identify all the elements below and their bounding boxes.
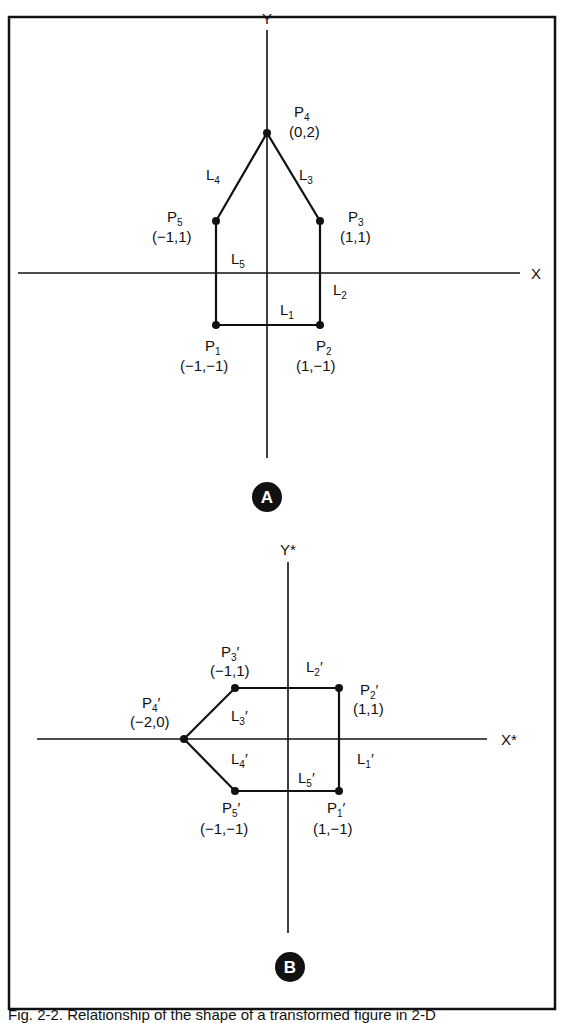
vertex-p5 [212,217,220,225]
svg-text:(−1,−1): (−1,−1) [180,357,228,374]
label-l2-prime: L2′ [306,658,323,678]
svg-text:P3′: P3′ [221,643,240,663]
svg-text:P1′: P1′ [327,799,346,819]
label-l4-prime: L4′ [231,750,248,770]
svg-text:P5: P5 [167,208,183,228]
panel-a: X Y P4 (0,2) P5 (−1,1) P3 (1,1) P1 (−1,−… [18,10,541,512]
x-axis-label: X [531,265,541,282]
y-axis-label: Y [262,10,272,27]
vertex-p4 [263,129,271,137]
label-l5: L5 [231,250,245,270]
label-l1: L1 [280,301,294,321]
label-p4: P4 (0,2) [289,103,320,140]
vertex-p3 [316,217,324,225]
svg-text:(1,1): (1,1) [340,228,371,245]
svg-text:P2′: P2′ [360,681,379,701]
label-p3-prime: P3′ (−1,1) [210,643,250,679]
badge-a: A [252,482,282,512]
label-p5-prime: P5′ (−1,−1) [200,799,248,837]
vertex-p1-prime [335,787,343,795]
label-p1-prime: P1′ (1,−1) [313,799,353,837]
vertex-p2-prime [335,684,343,692]
svg-text:(1,1): (1,1) [353,700,384,717]
panel-b: X* Y* P3′ (−1,1) P2′ (1,1) P4′ (−2,0) P5… [37,541,517,982]
vertex-p4-prime [180,735,188,743]
figure-caption: Fig. 2-2. Relationship of the shape of a… [8,1006,436,1023]
svg-text:(0,2): (0,2) [289,123,320,140]
svg-text:B: B [284,958,296,977]
label-p1: P1 (−1,−1) [180,337,228,374]
vertex-p1 [212,321,220,329]
svg-text:(−1,1): (−1,1) [152,228,192,245]
svg-text:P4′: P4′ [142,694,161,714]
svg-text:(−1,−1): (−1,−1) [200,820,248,837]
svg-text:A: A [261,488,273,507]
svg-text:(−2,0): (−2,0) [130,713,170,730]
vertex-p2 [316,321,324,329]
x-star-axis-label: X* [501,731,517,748]
vertex-p3-prime [231,684,239,692]
svg-text:(1,−1): (1,−1) [296,357,336,374]
y-star-axis-label: Y* [280,541,296,558]
label-p5: P5 (−1,1) [152,208,192,245]
label-p2-prime: P2′ (1,1) [353,681,384,717]
figure-frame [9,17,555,1009]
label-p4-prime: P4′ (−2,0) [130,694,170,730]
shape-a [216,133,320,325]
svg-text:(−1,1): (−1,1) [210,662,250,679]
vertex-p5-prime [231,787,239,795]
label-l3: L3 [299,166,313,186]
label-l3-prime: L3′ [231,707,248,727]
svg-text:P2: P2 [316,337,332,357]
svg-text:P4: P4 [294,103,310,123]
label-l4: L4 [206,166,220,186]
svg-text:P3: P3 [348,208,364,228]
svg-text:P1: P1 [205,337,221,357]
badge-b: B [275,952,305,982]
svg-text:P5′: P5′ [222,799,241,819]
label-p2: P2 (1,−1) [296,337,336,374]
label-p3: P3 (1,1) [340,208,371,245]
label-l2: L2 [333,281,347,301]
svg-text:(1,−1): (1,−1) [313,820,353,837]
label-l5-prime: L5′ [298,769,315,789]
label-l1-prime: L1′ [357,750,374,770]
